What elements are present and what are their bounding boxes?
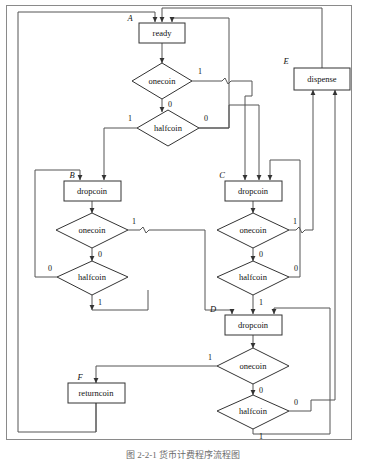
- edge-label-halfcoin-b-1: 1: [98, 298, 102, 307]
- node-onecoin-b-label: onecoin: [79, 225, 107, 235]
- node-halfcoin-a-label: halfcoin: [154, 123, 183, 133]
- edge-label-halfcoin-c-1: 1: [259, 298, 263, 307]
- edge-halfcoinA-0-branch-to-dropcoinC: [199, 105, 259, 180]
- node-dispense[interactable]: dispense: [294, 68, 350, 90]
- node-dropcoin-b[interactable]: dropcoin: [64, 181, 121, 201]
- edge-label-onecoin-c-1: 1: [293, 217, 297, 226]
- state-label-c: C: [219, 170, 225, 180]
- edge-label-onecoin-b-0: 0: [98, 250, 102, 259]
- node-dropcoin-d[interactable]: dropcoin: [225, 315, 282, 335]
- edge-onecoinB-1-to-dropcoinD: [128, 227, 232, 314]
- node-ready-label: ready: [153, 28, 173, 38]
- node-dropcoin-d-label: dropcoin: [238, 320, 269, 330]
- edge-dispense-to-ready: [162, 8, 322, 68]
- edge-label-halfcoin-b-0: 0: [48, 264, 52, 273]
- edge-halfcoinA-1-to-dropcoinB: [104, 128, 137, 180]
- edge-onecoinA-1-to-dropcoinC: [192, 78, 252, 180]
- edge-label-halfcoin-d-1: 1: [259, 432, 263, 441]
- node-halfcoin-d-label: halfcoin: [239, 406, 268, 416]
- edge-onecoinD-1-to-returncoin: [96, 366, 217, 383]
- node-onecoin-a[interactable]: onecoin: [132, 63, 192, 99]
- edge-label-onecoin-d-1: 1: [208, 353, 212, 362]
- figure-canvas: ready A onecoin 1 0 halfcoin 1 0 dropcoi…: [0, 0, 366, 459]
- state-label-b: B: [69, 170, 74, 180]
- node-dropcoin-b-label: dropcoin: [77, 186, 108, 196]
- node-halfcoin-c-label: halfcoin: [239, 272, 268, 282]
- node-onecoin-d-label: onecoin: [240, 361, 268, 371]
- edge-label-halfcoin-c-0: 0: [294, 264, 298, 273]
- edge-halfcoinD-0-to-dispense: [289, 90, 335, 411]
- edge-label-onecoin-a-1: 1: [198, 67, 202, 76]
- node-ready[interactable]: ready: [139, 23, 185, 43]
- state-label-e: E: [282, 56, 289, 66]
- node-dispense-label: dispense: [307, 74, 337, 84]
- flowchart-diagram: ready A onecoin 1 0 halfcoin 1 0 dropcoi…: [0, 0, 366, 459]
- node-onecoin-c[interactable]: onecoin: [217, 213, 289, 248]
- edge-label-halfcoin-d-0: 0: [294, 398, 298, 407]
- state-label-f: F: [76, 372, 83, 382]
- node-halfcoin-b[interactable]: halfcoin: [57, 261, 128, 295]
- node-dropcoin-c-label: dropcoin: [238, 186, 269, 196]
- node-halfcoin-a[interactable]: halfcoin: [137, 110, 199, 146]
- node-dropcoin-c[interactable]: dropcoin: [225, 181, 282, 201]
- edge-onecoinC-1-to-dispense: [289, 90, 313, 233]
- node-returncoin-label: returncoin: [79, 388, 115, 398]
- node-halfcoin-c[interactable]: halfcoin: [217, 261, 289, 295]
- node-onecoin-b[interactable]: onecoin: [56, 213, 128, 248]
- node-returncoin[interactable]: returncoin: [68, 383, 125, 403]
- node-onecoin-d[interactable]: onecoin: [217, 348, 289, 384]
- edge-label-onecoin-a-0: 0: [168, 100, 172, 109]
- edge-label-onecoin-c-0: 0: [259, 250, 263, 259]
- edge-label-onecoin-b-1: 1: [132, 217, 136, 226]
- figure-caption: 图 2-2-1 货币计费程序流程图: [0, 448, 366, 459]
- node-onecoin-c-label: onecoin: [240, 225, 268, 235]
- node-halfcoin-b-label: halfcoin: [78, 272, 107, 282]
- node-onecoin-a-label: onecoin: [149, 76, 177, 86]
- state-label-d: D: [209, 304, 217, 314]
- edge-label-halfcoin-a-0: 0: [204, 114, 208, 123]
- edge-label-onecoin-d-0: 0: [259, 386, 263, 395]
- edge-label-halfcoin-a-1: 1: [128, 114, 132, 123]
- node-halfcoin-d[interactable]: halfcoin: [217, 395, 289, 429]
- state-label-a: A: [126, 13, 133, 23]
